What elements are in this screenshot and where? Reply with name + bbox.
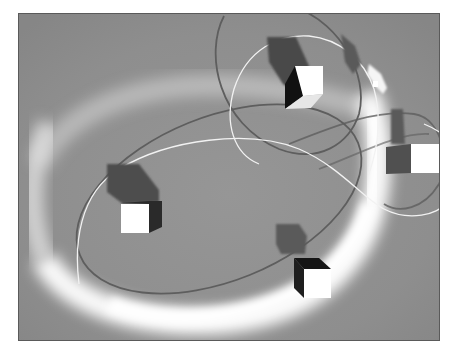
ship-light — [373, 81, 378, 87]
cube-right-face — [411, 144, 440, 173]
cube-bottom-face — [304, 269, 331, 298]
cube-right-side — [386, 144, 411, 174]
cube-left-face — [121, 204, 149, 233]
scene-canvas — [19, 14, 440, 341]
render-viewport[interactable]: 3D scene: floating cubes with shadows, o… — [18, 13, 440, 341]
cube-right-shadow — [391, 109, 405, 144]
